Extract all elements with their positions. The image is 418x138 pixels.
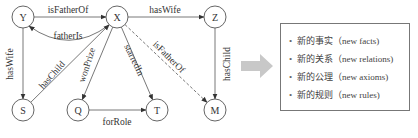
node-label: X bbox=[113, 12, 121, 23]
edge-label-hasWife: hasWife bbox=[5, 48, 15, 79]
node-Y: Y bbox=[12, 6, 34, 28]
node-label: Q bbox=[74, 105, 82, 116]
node-Z: Z bbox=[204, 6, 226, 28]
edge-label-starredIn: starredIn bbox=[122, 43, 146, 78]
result-item-label: 新的事实（new facts) bbox=[297, 36, 379, 46]
result-item-new-axioms: •新的公理（new axioms) bbox=[289, 68, 409, 86]
edge-label-forRole: forRole bbox=[102, 117, 131, 127]
node-T: T bbox=[146, 99, 168, 121]
node-label: Y bbox=[19, 12, 26, 23]
edge-label-hasChild: hasChild bbox=[37, 59, 67, 91]
result-item-new-relations: •新的关系（new relations) bbox=[289, 50, 409, 68]
edge-label-isFatherOf: isFatherOf bbox=[48, 5, 89, 15]
node-Q: Q bbox=[67, 99, 89, 121]
right-arrow-shape bbox=[241, 54, 273, 78]
right-arrow-icon bbox=[240, 52, 276, 80]
bullet-icon: • bbox=[289, 86, 297, 104]
results-box: •新的事实（new facts) •新的关系（new relations) •新… bbox=[280, 23, 410, 111]
result-item-label: 新的公理（new axioms) bbox=[297, 72, 388, 82]
node-M: M bbox=[204, 99, 226, 121]
edge-label-fatherIs: fatherIs bbox=[53, 31, 82, 41]
node-S: S bbox=[12, 99, 34, 121]
bullet-icon: • bbox=[289, 68, 297, 86]
result-item-new-rules: •新的规则（new rules) bbox=[289, 86, 409, 104]
node-label: T bbox=[154, 105, 160, 116]
edge-label-hasWife: hasWife bbox=[149, 5, 180, 15]
node-X: X bbox=[106, 6, 128, 28]
edge-label-wonPrize: wonPrize bbox=[77, 46, 98, 83]
node-label: Z bbox=[212, 12, 218, 23]
result-item-label: 新的规则（new rules) bbox=[297, 90, 380, 100]
edge-label-hasChild: hasChild bbox=[222, 47, 232, 81]
result-item-new-facts: •新的事实（new facts) bbox=[289, 32, 409, 50]
bullet-icon: • bbox=[289, 32, 297, 50]
bullet-icon: • bbox=[289, 50, 297, 68]
result-item-label: 新的关系（new relations) bbox=[297, 54, 393, 64]
edge-label-isFatherOf: isFatherOf bbox=[151, 39, 187, 75]
node-label: S bbox=[20, 105, 26, 116]
node-label: M bbox=[211, 105, 220, 116]
